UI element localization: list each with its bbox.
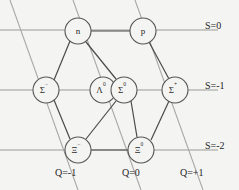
bond-sigmaplus-xizero xyxy=(151,101,169,140)
bond-sigmazero-xizero xyxy=(131,101,137,137)
particle-superscript-sigma-zero: 0 xyxy=(123,81,126,87)
particle-superscript-lambda-zero: 0 xyxy=(103,81,106,87)
particle-node-sigma-minus[interactable]: Σ− xyxy=(33,77,59,103)
bond-neutron-sigmaminus xyxy=(54,41,70,80)
bond-sigmaminus-ximinus xyxy=(54,100,70,139)
strangeness-label-s-1: S=-1 xyxy=(205,80,225,91)
bond-proton-sigmaplus xyxy=(149,42,169,79)
particle-superscript-xi-zero: 0 xyxy=(141,141,144,147)
bond-neutron-sigmazero xyxy=(86,42,116,79)
baryon-octet-diagram: npΣ−Λ0Σ0Σ+Ξ−Ξ0 S=0 S=-1 S=-2 Q=-1 Q=0 Q=… xyxy=(0,0,239,190)
strangeness-label-s-2: S=-2 xyxy=(205,140,225,151)
charge-label-q-plus1: Q=+1 xyxy=(180,167,204,178)
particle-node-sigma-zero[interactable]: Σ0 xyxy=(111,77,137,103)
particle-node-proton[interactable]: p xyxy=(130,18,156,44)
charge-label-q-minus1: Q=-1 xyxy=(55,167,76,178)
particle-node-neutron[interactable]: n xyxy=(65,18,91,44)
particle-node-xi-minus[interactable]: Ξ− xyxy=(65,137,91,163)
charge-label-q-zero: Q=0 xyxy=(122,167,140,178)
particle-nodes: npΣ−Λ0Σ0Σ+Ξ−Ξ0 xyxy=(33,18,188,163)
bond-sigmazero-ximinus xyxy=(86,101,116,139)
particle-superscript-sigma-minus: − xyxy=(45,81,48,87)
particle-superscript-xi-minus: − xyxy=(77,141,80,147)
strangeness-label-s0: S=0 xyxy=(205,20,221,31)
particle-label-proton: p xyxy=(141,26,146,36)
particle-superscript-sigma-plus: + xyxy=(174,81,177,87)
octet-vector-canvas: npΣ−Λ0Σ0Σ+Ξ−Ξ0 xyxy=(0,0,239,190)
particle-node-sigma-plus[interactable]: Σ+ xyxy=(162,77,188,103)
particle-node-xi-zero[interactable]: Ξ0 xyxy=(128,137,154,163)
particle-label-neutron: n xyxy=(76,26,81,36)
